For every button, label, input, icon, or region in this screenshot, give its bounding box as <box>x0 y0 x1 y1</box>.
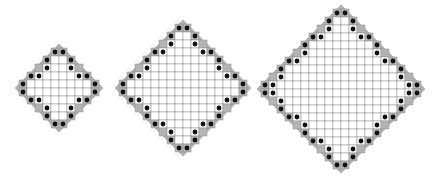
grid-cell <box>159 104 167 112</box>
dot-marker <box>217 114 222 119</box>
dot-marker <box>53 122 58 127</box>
grid-cell <box>59 112 67 120</box>
dot-marker <box>375 123 380 128</box>
grid-cell <box>317 89 325 97</box>
grid-cell <box>269 97 277 105</box>
grid-cell <box>325 113 333 121</box>
diamond-figure <box>0 0 440 182</box>
grid-cell <box>309 49 317 57</box>
grid-cell <box>381 89 389 97</box>
grid-cell <box>59 104 67 112</box>
dot-marker <box>129 98 134 103</box>
grid-cell <box>301 113 309 121</box>
grid-cell <box>325 105 333 113</box>
grid-cell <box>373 57 381 65</box>
grid-cell <box>183 104 191 112</box>
grid-cell <box>309 57 317 65</box>
grid-cell <box>365 121 373 129</box>
grid-cell <box>43 72 51 80</box>
grid-cell <box>293 73 301 81</box>
grid-cell <box>175 64 183 72</box>
grid-cell <box>381 121 389 129</box>
grid-cell <box>151 72 159 80</box>
grid-cell <box>167 96 175 104</box>
grid-cell <box>167 112 175 120</box>
grid-cell <box>333 17 341 25</box>
dot-marker <box>225 98 230 103</box>
grid-cell <box>365 65 373 73</box>
dot-marker <box>343 163 348 168</box>
grid-cell <box>143 80 151 88</box>
dot-marker <box>201 50 206 55</box>
grid-cell <box>349 33 357 41</box>
grid-cell <box>333 97 341 105</box>
dot-marker <box>85 74 90 79</box>
grid-cell <box>309 73 317 81</box>
grid-cell <box>159 72 167 80</box>
grid-cell <box>317 57 325 65</box>
dot-marker <box>279 75 284 80</box>
dot-marker <box>69 114 74 119</box>
grid-cell <box>333 121 341 129</box>
grid-cell <box>357 49 365 57</box>
grid-cell <box>183 112 191 120</box>
grid-cell <box>183 56 191 64</box>
grid-cell <box>389 105 397 113</box>
grid-cell <box>51 64 59 72</box>
grid-cell <box>349 129 357 137</box>
grid-cell <box>51 56 59 64</box>
grid-cell <box>75 88 83 96</box>
grid-cell <box>43 96 51 104</box>
dot-marker <box>85 98 90 103</box>
dot-marker <box>271 91 276 96</box>
grid-cell <box>325 73 333 81</box>
grid-cell <box>51 88 59 96</box>
dot-marker <box>271 83 276 88</box>
grid-cell <box>333 81 341 89</box>
grid-cell <box>199 80 207 88</box>
grid-cell <box>285 89 293 97</box>
dot-marker <box>69 106 74 111</box>
grid-cell <box>175 32 183 40</box>
grid-cell <box>199 64 207 72</box>
grid-cell <box>167 80 175 88</box>
grid-cell <box>333 41 341 49</box>
dot-marker <box>263 83 268 88</box>
grid-cell <box>349 49 357 57</box>
grid-cell <box>143 72 151 80</box>
grid-cell <box>43 88 51 96</box>
grid-cell <box>301 97 309 105</box>
dot-marker <box>319 35 324 40</box>
grid-cell <box>333 153 341 161</box>
grid-cell <box>341 65 349 73</box>
grid-cell <box>333 57 341 65</box>
grid-cell <box>365 113 373 121</box>
grid-cell <box>191 56 199 64</box>
grid-cell <box>357 129 365 137</box>
grid-cell <box>127 80 135 88</box>
grid-cell <box>365 73 373 81</box>
grid-cell <box>59 56 67 64</box>
grid-cell <box>373 65 381 73</box>
grid-cell <box>151 56 159 64</box>
grid-cell <box>59 64 67 72</box>
grid-cell <box>301 65 309 73</box>
grid-cell <box>59 80 67 88</box>
grid-cell <box>67 72 75 80</box>
grid-cell <box>365 97 373 105</box>
grid-cell <box>341 41 349 49</box>
grid-cell <box>309 81 317 89</box>
dot-marker <box>145 106 150 111</box>
grid-cell <box>325 137 333 145</box>
grid-cell <box>191 112 199 120</box>
grid-cell <box>83 80 91 88</box>
grid-cell <box>223 104 231 112</box>
grid-cell <box>151 112 159 120</box>
dot-marker <box>343 11 348 16</box>
grid-cell <box>159 112 167 120</box>
grid-cell <box>389 97 397 105</box>
grid-cell <box>175 104 183 112</box>
grid-cell <box>341 49 349 57</box>
grid-cell <box>215 72 223 80</box>
dot-marker <box>391 59 396 64</box>
